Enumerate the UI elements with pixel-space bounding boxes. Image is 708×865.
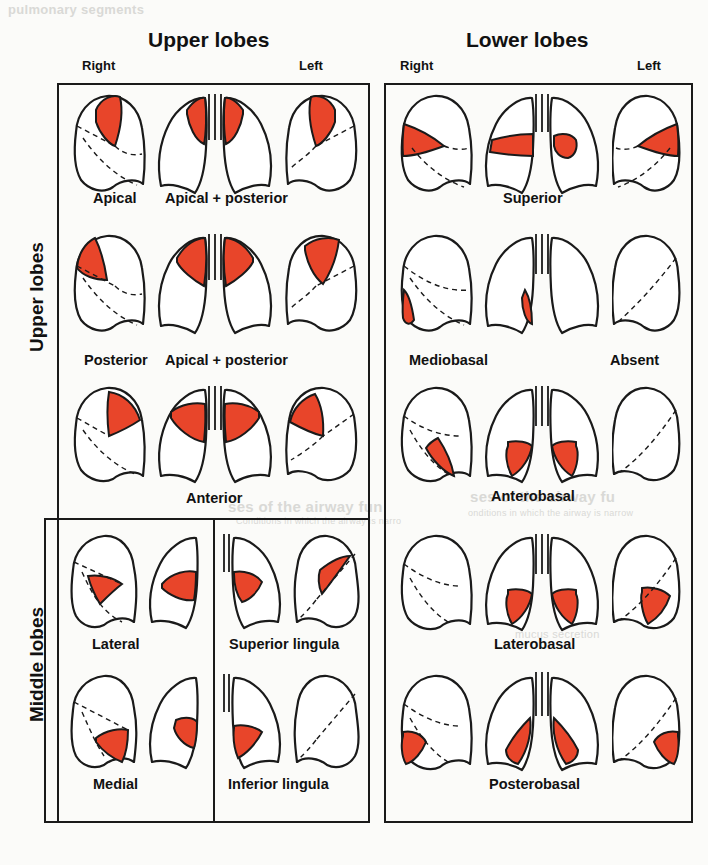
figure-lateral-right-lateral (60, 528, 140, 630)
side-label-right-panel-left: Left (637, 58, 661, 73)
caption-mediobasal: Mediobasal (409, 352, 488, 368)
middle-lobes-top-divider (44, 518, 370, 520)
figure-inferior-lingula-frontal-left (216, 668, 292, 770)
figure-inferior-lingula-left-lateral (292, 668, 368, 770)
figure-apical-left-lateral (285, 88, 367, 198)
side-label-right-panel-right: Right (400, 58, 433, 73)
figure-superior-lingula-left-lateral (292, 528, 368, 630)
caption-anterobasal: Anterobasal (491, 488, 575, 504)
caption-superior-lingula: Superior lingula (229, 636, 339, 652)
figure-superior-right-lateral (390, 88, 480, 198)
figure-anterior-frontal (151, 380, 279, 485)
caption-absent: Absent (610, 352, 659, 368)
group-title-upper-lobes: Upper lobes (148, 28, 269, 52)
figure-anterobasal-left-lateral (612, 380, 690, 485)
figure-anterobasal-frontal (478, 380, 606, 485)
figure-posterobasal-left-lateral (612, 668, 690, 773)
caption-apical-posterior-1: Apical + posterior (165, 190, 288, 206)
side-label-left-panel-right: Right (82, 58, 115, 73)
figure-posterior-left-lateral (285, 228, 367, 338)
figure-lateral-frontal-right (140, 528, 210, 630)
figure-apical-right-lateral (63, 88, 153, 198)
caption-posterior: Posterior (84, 352, 148, 368)
figure-laterobasal-frontal (478, 528, 606, 633)
figure-superior-lingula-frontal-left (216, 528, 292, 630)
figure-apical-posterior-frontal (151, 88, 279, 198)
caption-anterior: Anterior (186, 490, 242, 506)
figure-anterior-right-lateral (63, 380, 153, 485)
caption-superior: Superior (503, 190, 563, 206)
figure-posterobasal-frontal (478, 668, 606, 773)
figure-laterobasal-left-lateral (612, 528, 690, 633)
middle-lobes-left-divider (44, 518, 46, 823)
figure-medial-frontal-right (140, 668, 210, 770)
group-title-lower-lobes: Lower lobes (466, 28, 589, 52)
row-group-label-upper-lobes: Upper lobes (26, 242, 48, 352)
figure-laterobasal-right-lateral (390, 528, 480, 633)
figure-apical-posterior-frontal-2 (151, 228, 279, 338)
caption-medial: Medial (93, 776, 138, 792)
figure-posterobasal-right-lateral (390, 668, 480, 773)
side-label-left-panel-left: Left (299, 58, 323, 73)
figure-posterior-right-lateral (63, 228, 153, 338)
caption-lateral: Lateral (92, 636, 140, 652)
caption-posterobasal: Posterobasal (489, 776, 580, 792)
figure-anterobasal-right-lateral (390, 380, 480, 485)
figure-superior-left-lateral (612, 88, 690, 198)
caption-inferior-lingula: Inferior lingula (228, 776, 329, 792)
figure-anterior-left-lateral (285, 380, 367, 485)
figure-mediobasal-right-lateral (390, 228, 480, 338)
diagram-stage: Upper lobes Lower lobes Right Left Right… (0, 0, 708, 865)
figure-mediobasal-frontal (478, 228, 606, 338)
middle-lobes-center-divider (213, 518, 215, 823)
caption-apical: Apical (93, 190, 137, 206)
figure-absent-left-lateral (612, 228, 690, 338)
figure-medial-right-lateral (60, 668, 140, 770)
caption-laterobasal: Laterobasal (494, 636, 575, 652)
figure-superior-frontal (478, 88, 606, 198)
caption-apical-posterior-2: Apical + posterior (165, 352, 288, 368)
